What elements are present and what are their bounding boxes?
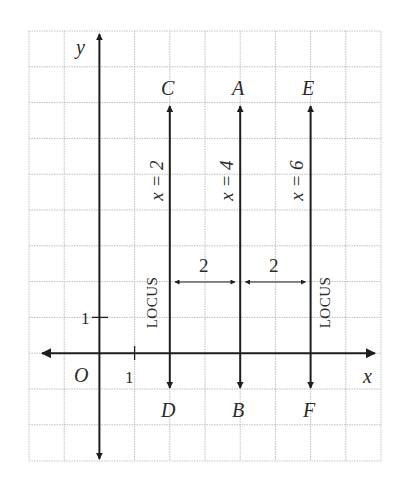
point-label-c: C (161, 78, 174, 98)
locus-diagram (0, 0, 399, 482)
grid (29, 31, 381, 461)
point-label-e: E (302, 78, 314, 98)
point-label-d: D (161, 400, 175, 420)
x-tick-label: 1 (125, 369, 134, 386)
locus-label-left: LOCUS (145, 271, 160, 335)
y-tick-label: 1 (81, 310, 90, 327)
equation-x-4: x = 4 (217, 153, 236, 209)
y-axis-label: y (76, 37, 85, 57)
point-label-a: A (232, 78, 244, 98)
x-axis-label: x (363, 366, 372, 386)
point-label-b: B (232, 400, 244, 420)
distance-label-left: 2 (199, 256, 209, 275)
locus-label-right: LOCUS (318, 271, 333, 335)
point-label-f: F (303, 400, 315, 420)
distance-label-right: 2 (269, 256, 279, 275)
equation-x-2: x = 2 (147, 153, 166, 209)
origin-label: O (74, 365, 88, 385)
equation-x-6: x = 6 (287, 153, 306, 209)
